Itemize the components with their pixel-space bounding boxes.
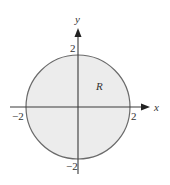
tick-x-pos: 2 — [131, 110, 137, 122]
diagram-canvas: x y 2 −2 −2 2 R — [0, 0, 170, 185]
region-label: R — [95, 80, 103, 92]
tick-y-pos: 2 — [70, 42, 76, 54]
x-axis-label: x — [153, 101, 159, 113]
x-axis-arrow-icon — [141, 104, 150, 111]
tick-y-neg: −2 — [66, 160, 78, 172]
y-axis-label: y — [74, 13, 80, 25]
y-axis-arrow-icon — [75, 28, 82, 37]
tick-x-neg: −2 — [12, 110, 24, 122]
